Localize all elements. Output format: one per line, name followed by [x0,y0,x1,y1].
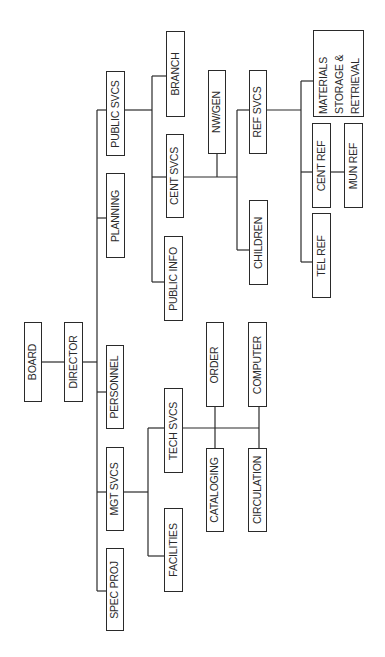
node-board: BOARD [24,322,42,402]
node-label: COMPUTER [251,335,264,393]
node-facilities: FACILITIES [164,508,183,592]
node-ref-svcs: REF SVCS [249,70,267,154]
node-label: PLANNING [109,189,122,241]
node-materials-storage-retrieval: MATERIALS STORAGE & RETRIEVAL [313,30,364,117]
node-label: MATERIALS STORAGE & RETRIEVAL [315,34,363,114]
node-cataloging: CATALOGING [206,448,224,532]
node-branch: BRANCH [166,31,185,117]
node-label: CHILDREN [252,216,265,268]
node-label: MUN REF [347,142,360,188]
node-label: TEL REF [315,235,328,276]
node-spec-proj: SPEC PROJ [106,548,124,631]
node-label: PUBLIC SVCS [109,80,122,147]
node-label: CIRCULATION [251,456,264,524]
node-circulation: CIRCULATION [248,448,267,532]
node-personnel: PERSONNEL [106,345,124,429]
node-cent-ref: CENT REF [312,123,331,208]
node-planning: PLANNING [106,173,125,258]
node-computer: COMPUTER [248,322,267,407]
node-cent-svcs: CENT SVCS [166,134,184,218]
node-label: BRANCH [169,52,182,95]
node-label: ORDER [208,346,221,383]
node-children: CHILDREN [249,200,268,285]
node-director: DIRECTOR [64,322,83,402]
node-label: TECH SVCS [167,401,180,459]
node-label: NW/GEN [210,91,223,133]
node-mun-ref: MUN REF [344,123,363,208]
node-tel-ref: TEL REF [312,213,331,298]
node-label: CENT REF [315,140,328,191]
node-public-svcs: PUBLIC SVCS [106,71,125,156]
node-public-info: PUBLIC INFO [164,236,183,321]
node-label-line-2: STORAGE & [331,34,347,114]
node-label: CATALOGING [208,457,221,522]
node-nw-gen: NW/GEN [208,70,226,154]
node-order: ORDER [206,322,224,407]
node-label: PERSONNEL [108,356,121,419]
node-label: SPEC PROJ [108,561,121,619]
node-label: DIRECTOR [67,335,80,388]
node-label-line-1: MATERIALS [315,34,331,114]
node-label: BOARD [26,344,39,380]
node-tech-svcs: TECH SVCS [164,388,183,473]
org-chart: BOARD DIRECTOR PUBLIC SVCS PLANNING PERS… [0,0,385,657]
node-label: PUBLIC INFO [167,247,180,311]
node-label: REF SVCS [251,87,264,138]
node-label: FACILITIES [167,523,180,576]
node-label: CENT SVCS [168,147,181,205]
node-mgt-svcs: MGT SVCS [106,447,124,531]
node-label: MGT SVCS [108,462,121,515]
node-label-line-3: RETRIEVAL [347,34,363,114]
